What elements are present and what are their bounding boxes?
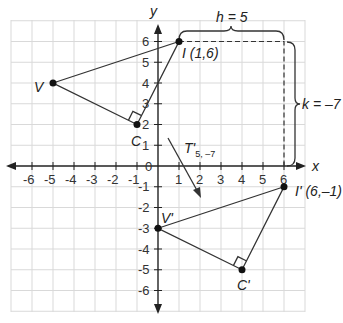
y-tick-label: -4 <box>138 242 150 257</box>
x-axis-label: x <box>311 158 320 174</box>
y-tick-label: -3 <box>138 221 150 236</box>
h-brace <box>179 26 284 40</box>
x-tick-label: 4 <box>238 172 245 187</box>
x-tick-label: 2 <box>196 172 203 187</box>
y-axis-up-arrow-icon <box>154 24 162 34</box>
x-tick-label: -5 <box>44 172 56 187</box>
translation-arrowhead-icon <box>193 187 201 198</box>
y-axis-label: y <box>149 3 158 19</box>
point-C <box>134 121 141 128</box>
x-tick-label: -3 <box>86 172 98 187</box>
label-C: C <box>131 133 142 149</box>
label-V-prime: V' <box>161 210 174 226</box>
x-tick-label: 5 <box>259 172 266 187</box>
point-I-prime <box>281 183 288 190</box>
y-tick-label: 1 <box>142 138 149 153</box>
label-I-prime: I' (6,–1) <box>295 183 342 199</box>
y-tick-label: -6 <box>138 283 150 298</box>
y-tick-label: -5 <box>138 262 150 277</box>
x-tick-label: -4 <box>65 172 77 187</box>
y-tick-label: 4 <box>142 76 149 91</box>
h-label: h = 5 <box>216 9 248 25</box>
x-tick-label: 1 <box>175 172 182 187</box>
x-tick-label: -6 <box>23 172 35 187</box>
label-I: I (1,6) <box>182 45 219 61</box>
translation-label-sub: 5, –7 <box>195 149 215 159</box>
x-tick-label: 3 <box>217 172 224 187</box>
label-V: V <box>34 79 45 95</box>
point-V <box>50 80 57 87</box>
y-axis <box>154 24 162 314</box>
x-axis <box>6 162 306 170</box>
y-tick-label: 6 <box>142 34 149 49</box>
k-label: k = –7 <box>302 96 342 112</box>
x-tick-labels: -6 -5 -4 -3 -2 -1 1 2 3 4 5 6 <box>23 172 287 187</box>
y-tick-label: 5 <box>142 55 149 70</box>
y-tick-label: -2 <box>138 200 150 215</box>
coordinate-plane: y x 0 -6 -5 -4 -3 -2 -1 1 2 3 4 5 6 1 2 … <box>0 0 343 323</box>
y-tick-label: 2 <box>142 117 149 132</box>
point-I <box>176 38 183 45</box>
y-tick-label: -1 <box>138 179 150 194</box>
origin-label: 0 <box>145 159 152 174</box>
y-axis-down-arrow-icon <box>154 304 162 314</box>
label-C-prime: C' <box>237 277 251 293</box>
x-tick-label: -2 <box>107 172 119 187</box>
point-C-prime <box>239 266 246 273</box>
